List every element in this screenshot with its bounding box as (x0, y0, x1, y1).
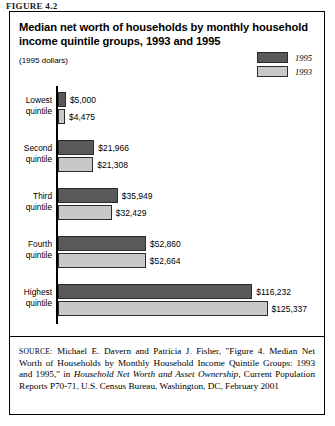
plot-area: Lowestquintile$5,000$4,475Secondquintile… (10, 86, 324, 330)
chart-legend: 1995 1993 (257, 52, 312, 80)
bar-1993 (58, 301, 268, 316)
category-label: Thirdquintile (10, 191, 52, 212)
chart-title: Median net worth of households by monthl… (19, 21, 309, 48)
bar-row: $52,664 (58, 253, 181, 268)
bar-1993 (58, 157, 94, 172)
bar-row: $21,308 (58, 157, 128, 172)
bar-row: $116,232 (58, 284, 292, 299)
bar-value-label: $52,860 (150, 239, 181, 249)
bar-value-label: $21,966 (98, 143, 129, 153)
bar-group: Lowestquintile$5,000$4,475 (10, 86, 324, 132)
legend-swatch-1995 (257, 52, 288, 63)
bar-value-label: $125,337 (272, 304, 307, 314)
bar-row: $52,860 (58, 236, 181, 251)
chart-area: Median net worth of households by monthl… (10, 12, 324, 336)
bar-value-label: $5,000 (70, 95, 96, 105)
source-note: SOURCE: Michael E. Davern and Patricia J… (10, 337, 324, 392)
bar-value-label: $116,232 (256, 287, 291, 297)
bar-group: Fourthquintile$52,860$52,664 (10, 230, 324, 276)
bar-group: Thirdquintile$35,949$32,429 (10, 182, 324, 228)
legend-label-1995: 1995 (295, 53, 312, 63)
bar-1995 (58, 140, 95, 155)
bar-value-label: $35,949 (122, 191, 153, 201)
figure-panel: Median net worth of households by monthl… (9, 11, 325, 415)
bar-value-label: $32,429 (116, 208, 147, 218)
source-italic-title: Household Net Worth and Asset Ownership (74, 369, 239, 379)
bar-1995 (58, 284, 253, 299)
legend-swatch-1993 (257, 66, 288, 77)
bar-row: $125,337 (58, 301, 307, 316)
legend-label-1993: 1993 (295, 67, 312, 77)
bar-1993 (58, 205, 112, 220)
category-label: Secondquintile (10, 143, 52, 164)
bar-groups: Lowestquintile$5,000$4,475Secondquintile… (10, 86, 324, 324)
category-label: Lowestquintile (10, 95, 52, 116)
bar-1995 (58, 92, 66, 107)
bar-1993 (58, 253, 146, 268)
bar-value-label: $21,308 (97, 160, 128, 170)
legend-item-1995: 1995 (257, 52, 312, 63)
bar-group: Secondquintile$21,966$21,308 (10, 134, 324, 180)
category-label: Highestquintile (10, 287, 52, 308)
figure-caption: FIGURE 4.2 (0, 0, 335, 10)
bar-value-label: $52,664 (150, 256, 181, 266)
bar-row: $35,949 (58, 188, 153, 203)
bar-row: $4,475 (58, 109, 95, 124)
bar-row: $32,429 (58, 205, 147, 220)
bar-1995 (58, 236, 147, 251)
legend-item-1993: 1993 (257, 66, 312, 77)
bar-1993 (58, 109, 65, 124)
category-label: Fourthquintile (10, 239, 52, 260)
bar-row: $5,000 (58, 92, 96, 107)
bar-group: Highestquintile$116,232$125,337 (10, 278, 324, 324)
bar-1995 (58, 188, 118, 203)
bar-value-label: $4,475 (69, 112, 95, 122)
source-kicker: SOURCE: (19, 347, 52, 356)
bar-row: $21,966 (58, 140, 130, 155)
chart-subtitle: (1995 dollars) (19, 56, 68, 65)
